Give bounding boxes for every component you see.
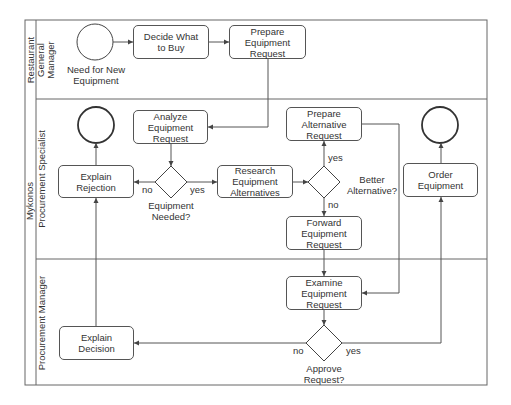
start-event-circle — [77, 24, 113, 60]
task-prepare-alternative-request[interactable]: PrepareAlternativeRequest — [286, 107, 362, 141]
gateway-approve-no: no — [293, 345, 304, 356]
lane-label-restaurant-general-manager: Restaurant General Manager — [26, 25, 58, 95]
task-label: Equipment — [301, 288, 346, 299]
pool-label: Mykonos — [25, 161, 35, 241]
task-label: to Buy — [144, 42, 198, 53]
bpmn-diagram: Mykonos Restaurant General Manager Procu… — [0, 0, 511, 405]
label-line: Needed? — [141, 211, 201, 222]
gateway-better-diamond — [308, 166, 340, 198]
task-label: Forward — [301, 217, 346, 228]
task-label: Equipment — [418, 180, 463, 191]
task-analyze-equipment-request[interactable]: AnalyzeEquipmentRequest — [133, 110, 208, 144]
lane-label-procurement-specialist: Procurement Specialist — [37, 119, 47, 239]
task-forward-equipment-request[interactable]: ForwardEquipmentRequest — [286, 216, 362, 250]
task-decide-what-to-buy[interactable]: Decide Whatto Buy — [133, 25, 209, 59]
task-examine-equipment-request[interactable]: ExamineEquipmentRequest — [286, 276, 362, 310]
label-line: Approve — [294, 363, 354, 374]
task-label: Equipment — [230, 176, 280, 187]
task-label: Equipment — [245, 37, 290, 48]
lane-label-line: Manager — [46, 25, 56, 95]
task-label: Examine — [301, 277, 346, 288]
task-label: Prepare — [302, 108, 347, 119]
task-research-equipment-alternatives[interactable]: ResearchEquipmentAlternatives — [217, 165, 293, 198]
task-label: Explain — [76, 171, 116, 182]
gateway-needed-label: Equipment Needed? — [141, 200, 201, 222]
gateway-needed-yes: yes — [190, 184, 205, 195]
gateway-better-label: Better Alternative? — [342, 174, 402, 196]
gateway-approve-label: Approve Request? — [294, 363, 354, 385]
task-label: Request — [148, 133, 193, 144]
end-event-rejection-circle — [78, 107, 114, 143]
task-label: Alternative — [302, 119, 347, 130]
label-line: Need for New — [66, 64, 126, 75]
gateway-approve-diamond — [306, 325, 342, 361]
task-label: Request — [301, 239, 346, 250]
label-line: Equipment — [66, 75, 126, 86]
gateway-needed-no: no — [142, 184, 153, 195]
task-order-equipment[interactable]: OrderEquipment — [403, 163, 478, 197]
task-label: Equipment — [301, 228, 346, 239]
gateway-approve-yes: yes — [346, 345, 361, 356]
gateway-needed-diamond — [155, 166, 187, 198]
end-event-order-circle — [422, 107, 458, 143]
label-line: Request? — [294, 374, 354, 385]
label-line: Better — [342, 174, 402, 185]
task-label: Prepare — [245, 26, 290, 37]
task-label: Equipment — [148, 122, 193, 133]
task-label: Request — [302, 130, 347, 141]
task-label: Research — [230, 165, 280, 176]
start-event-label: Need for New Equipment — [66, 64, 126, 86]
task-label: Decision — [78, 343, 114, 354]
label-line: Equipment — [141, 200, 201, 211]
task-label: Request — [301, 299, 346, 310]
task-label: Order — [418, 169, 463, 180]
gateway-better-yes: yes — [328, 152, 343, 163]
task-explain-decision[interactable]: ExplainDecision — [59, 326, 134, 360]
label-line: Alternative? — [342, 185, 402, 196]
task-label: Analyze — [148, 111, 193, 122]
task-label: Explain — [78, 332, 114, 343]
task-label: Request — [245, 48, 290, 59]
task-prepare-equipment-request[interactable]: PrepareEquipmentRequest — [229, 25, 306, 59]
task-explain-rejection[interactable]: ExplainRejection — [58, 165, 134, 198]
task-label: Alternatives — [230, 187, 280, 198]
task-label: Decide What — [144, 31, 198, 42]
lane-label-procurement-manager: Procurement Manager — [37, 263, 47, 383]
gateway-better-no: no — [328, 199, 339, 210]
task-label: Rejection — [76, 182, 116, 193]
